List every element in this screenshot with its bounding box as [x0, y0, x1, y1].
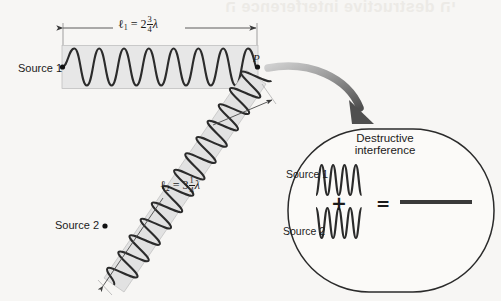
- source1-label: Source 1: [18, 62, 62, 74]
- path1-equals: =: [131, 17, 138, 31]
- source2-label: Source 2: [55, 219, 99, 231]
- plus-sign: +: [331, 192, 347, 214]
- path2-equals: =: [173, 178, 180, 192]
- point-p-label: P: [253, 52, 260, 64]
- callout-arrow: [268, 66, 374, 124]
- inset-title-line1: Destructive: [356, 132, 414, 144]
- path1-band-group: [60, 46, 260, 89]
- path1-dimension: [63, 23, 257, 45]
- source2-dot: [102, 223, 107, 228]
- inset-title-line2: interference: [355, 144, 416, 156]
- path1-lambda: λ: [153, 17, 158, 31]
- path1-length-label: ℓ1 = 234λ: [118, 15, 158, 33]
- equals-sign: =: [376, 194, 390, 214]
- path2-length-label: ℓ2 = 314λ: [160, 176, 200, 194]
- path2-subscript: 2: [166, 184, 170, 193]
- point-p-dot: [255, 64, 260, 69]
- inset-source1-label: Source 1: [286, 168, 328, 180]
- inset-source2-label: Source 2: [283, 225, 325, 237]
- path2-lambda: λ: [195, 178, 200, 192]
- inset-title: Destructive interference: [333, 133, 437, 156]
- path1-subscript: 1: [124, 23, 128, 32]
